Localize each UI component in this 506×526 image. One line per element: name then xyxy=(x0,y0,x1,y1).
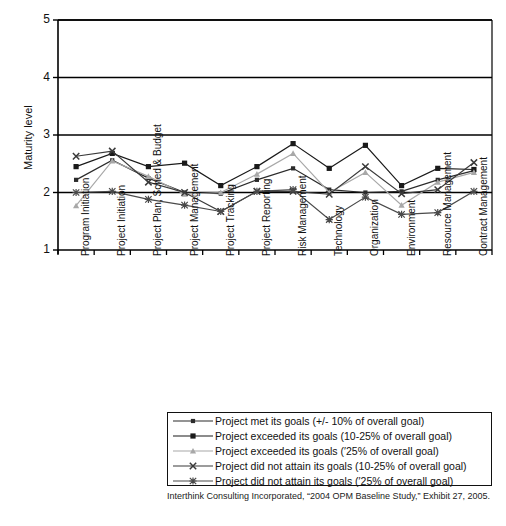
series-2-point-1-glyph xyxy=(109,158,115,164)
x-tick-label-7: Technology xyxy=(333,205,344,256)
maturity-level-line-chart: 12345 Program InitiationProject Initiati… xyxy=(0,0,506,526)
x-tick-label-4: Project Tracking xyxy=(225,184,236,256)
series-2-point-6 xyxy=(290,150,296,156)
legend-item-1: Project exceeded its goals (10-25% of ov… xyxy=(168,429,491,443)
series-1-point-2-glyph xyxy=(146,164,151,169)
series-2-point-5-glyph xyxy=(254,171,260,177)
series-0-point-5-glyph xyxy=(255,178,259,182)
legend-label-0: Project met its goals (+/- 10% of overal… xyxy=(215,415,424,427)
series-1-point-4 xyxy=(218,183,223,188)
series-1-point-4-glyph xyxy=(218,183,223,188)
series-4-point-4-glyph xyxy=(217,208,224,215)
series-4-point-9 xyxy=(398,211,405,218)
series-3-point-8-glyph xyxy=(362,163,368,169)
series-2-point-8 xyxy=(362,169,368,175)
legend-label-3: Project did not attain its goals (10-25%… xyxy=(215,460,467,472)
legend: Project met its goals (+/- 10% of overal… xyxy=(167,412,492,486)
series-4-point-11 xyxy=(470,188,477,195)
legend-marker-dot-icon xyxy=(171,415,215,427)
series-1-point-0-glyph xyxy=(73,164,78,169)
series-1-point-5-glyph xyxy=(254,164,259,169)
series-4-point-4 xyxy=(217,208,224,215)
source-note: Interthink Consulting Incorporated, “200… xyxy=(167,491,490,501)
series-0-point-5 xyxy=(255,178,259,182)
series-2-point-6-glyph xyxy=(290,150,296,156)
y-axis-title: Maturity level xyxy=(22,105,34,170)
x-tick-label-1: Project Initiation xyxy=(116,185,127,256)
series-line-1 xyxy=(76,144,474,186)
x-tick-label-0: Program Initiation xyxy=(80,178,91,256)
legend-item-3: Project did not attain its goals (10-25%… xyxy=(168,459,491,473)
legend-glyph-1-glyph xyxy=(190,433,195,438)
legend-item-0: Project met its goals (+/- 10% of overal… xyxy=(168,414,491,428)
x-tick-label-5: Project Reporting xyxy=(261,179,272,256)
x-tick-label-3: Project Management xyxy=(189,164,200,256)
series-1-point-7 xyxy=(327,166,332,171)
x-tick-label-6: Risk Management xyxy=(297,175,308,256)
x-tick-label-9: Environment xyxy=(406,200,417,256)
series-0-point-6 xyxy=(291,166,295,170)
x-tick-label-10: Resource Management xyxy=(442,152,453,256)
legend-glyph-0-glyph xyxy=(191,419,195,423)
series-4-point-3-glyph xyxy=(181,202,188,209)
x-tick-label-11: Contract Management xyxy=(478,157,489,256)
legend-marker-square-icon xyxy=(171,430,215,442)
series-4-point-3 xyxy=(181,202,188,209)
series-4-point-11-glyph xyxy=(470,188,477,195)
series-2-point-8-glyph xyxy=(362,169,368,175)
series-4-point-0-glyph xyxy=(72,189,79,196)
series-1-point-6-glyph xyxy=(290,141,295,146)
series-4-point-8 xyxy=(362,194,369,201)
series-1-point-9-glyph xyxy=(399,183,404,188)
series-4-point-1 xyxy=(109,188,116,195)
chart-plot-area xyxy=(0,0,506,410)
legend-item-4: Project did not attain its goals (′25% o… xyxy=(168,474,491,488)
series-3-point-8 xyxy=(362,163,368,169)
series-0-point-6-glyph xyxy=(291,166,295,170)
y-tick-label-2: 2 xyxy=(30,185,50,199)
legend-marker-x-icon xyxy=(171,460,215,472)
series-4-point-7 xyxy=(326,216,333,223)
series-1-point-7-glyph xyxy=(327,166,332,171)
series-0-point-0 xyxy=(74,178,78,182)
legend-label-4: Project did not attain its goals (′25% o… xyxy=(215,475,453,487)
series-1-point-10-glyph xyxy=(435,166,440,171)
legend-label-2: Project exceeded its goals (′25% of over… xyxy=(215,445,439,457)
series-4-point-10-glyph xyxy=(434,209,441,216)
series-3-point-11 xyxy=(471,159,477,165)
legend-glyph-1 xyxy=(190,433,195,438)
y-tick-label-5: 5 xyxy=(30,12,50,26)
series-4-point-0 xyxy=(72,189,79,196)
y-tick-label-4: 4 xyxy=(30,70,50,84)
x-tick-label-2: Project Plan, Sched & Budget xyxy=(152,124,163,256)
series-1-point-6 xyxy=(290,141,295,146)
series-1-point-10 xyxy=(435,166,440,171)
series-4-point-6-glyph xyxy=(289,186,296,193)
legend-label-1: Project exceeded its goals (10-25% of ov… xyxy=(215,430,452,442)
series-4-point-9-glyph xyxy=(398,211,405,218)
series-1-point-3 xyxy=(182,161,187,166)
legend-glyph-4 xyxy=(189,477,196,484)
series-1-point-0 xyxy=(73,164,78,169)
x-tick-label-8: Organization xyxy=(369,199,380,256)
series-4-point-8-glyph xyxy=(362,194,369,201)
series-4-point-2-glyph xyxy=(145,196,152,203)
legend-glyph-4-glyph xyxy=(189,477,196,484)
y-tick-label-1: 1 xyxy=(30,242,50,256)
series-1-point-8-glyph xyxy=(363,143,368,148)
series-1-point-5 xyxy=(254,164,259,169)
series-1-point-2 xyxy=(146,164,151,169)
series-4-point-5-glyph xyxy=(253,188,260,195)
series-4-point-5 xyxy=(253,188,260,195)
series-4-point-6 xyxy=(289,186,296,193)
series-line-0 xyxy=(76,160,474,193)
series-4-point-1-glyph xyxy=(109,188,116,195)
legend-marker-star-icon xyxy=(171,475,215,487)
legend-item-2: Project exceeded its goals (′25% of over… xyxy=(168,444,491,458)
series-2-point-5 xyxy=(254,171,260,177)
series-2-point-2-glyph xyxy=(145,173,151,179)
series-4-point-7-glyph xyxy=(326,216,333,223)
series-2-point-1 xyxy=(109,158,115,164)
series-1-point-9 xyxy=(399,183,404,188)
legend-glyph-0 xyxy=(191,419,195,423)
